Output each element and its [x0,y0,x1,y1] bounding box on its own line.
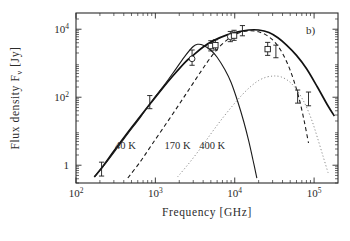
series-curve-1 [94,44,257,178]
annotation-greybody-170K: 170 K [165,140,191,151]
data-point [273,45,278,58]
marker-circle [189,56,195,62]
y-axis-title: Flux density Fν [Jy] [9,47,24,150]
x-axis-title: Frequency [GHz] [162,206,252,219]
sed-plot-svg: 1021031041051102104Frequency [GHz]Flux d… [0,0,350,241]
plot-frame [76,13,338,183]
marker-square [231,33,236,38]
data-point [306,92,311,106]
axes-frame [76,13,338,183]
x-tick-label-2: 104 [227,186,242,200]
annotation-greybody-400K: 400 K [199,140,225,151]
curve-layer [94,30,334,178]
sed-figure: 1021031041051102104Frequency [GHz]Flux d… [0,0,350,241]
x-tick-label-1: 103 [148,186,163,200]
marker-square [213,42,218,47]
series-curve-3 [177,76,328,177]
y-tick-label-0: 1 [64,159,70,171]
annotation-panel-label: b) [306,24,316,37]
x-tick-label-0: 102 [69,186,84,200]
annotation-greybody-40K: 40 K [115,140,136,151]
data-point [189,50,195,65]
y-tick-label-2: 104 [54,22,69,36]
series-curve-2 [128,31,309,178]
y-tick-label-1: 102 [54,90,69,104]
marker-square [265,46,270,51]
x-tick-label-3: 105 [307,186,322,200]
data-point [265,42,270,55]
label-layer: 1021031041051102104Frequency [GHz]Flux d… [9,22,322,219]
